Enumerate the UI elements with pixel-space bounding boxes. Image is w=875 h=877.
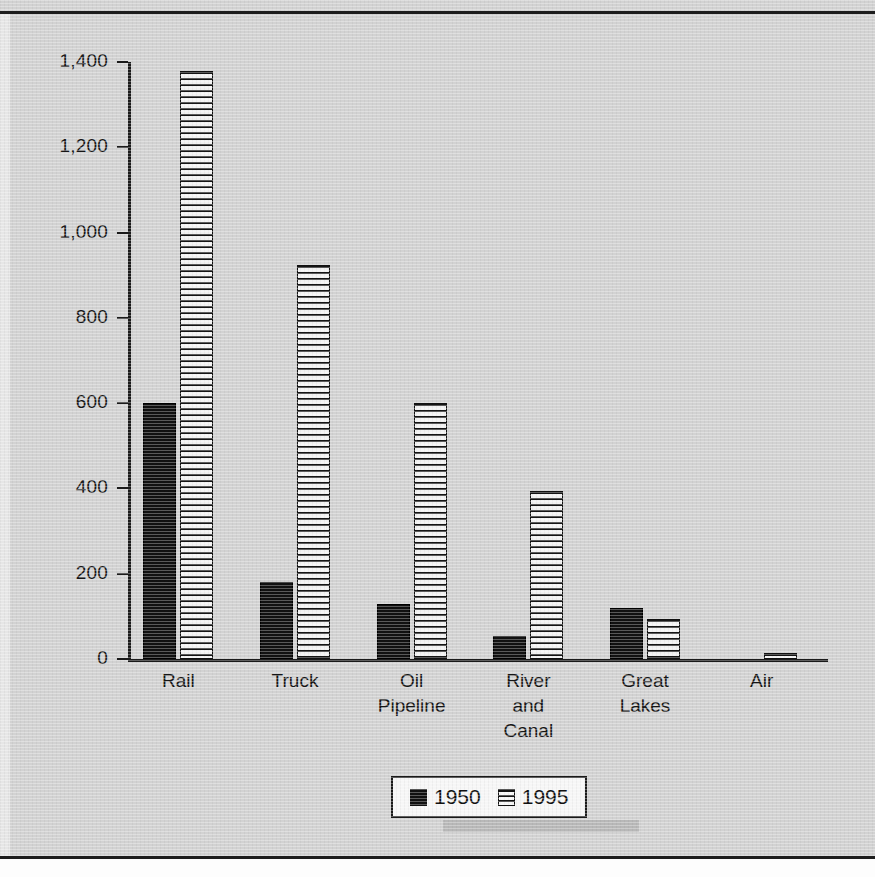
- y-tick-1,200: [117, 146, 128, 148]
- y-tick-1,400: [117, 61, 128, 63]
- x-category-label-truck: Truck: [240, 668, 350, 693]
- bar-1950-rail: [143, 403, 176, 659]
- top-rule: [0, 11, 875, 14]
- y-tick-1,000: [117, 232, 128, 234]
- chart-legend: 1950 1995: [391, 776, 587, 818]
- y-tick-label-600: 600: [0, 391, 108, 413]
- x-category-label-rail: Rail: [123, 668, 233, 693]
- page-bottom-margin: [0, 859, 875, 877]
- y-tick-0: [117, 658, 128, 660]
- bar-1950-great-lakes: [610, 608, 643, 659]
- y-tick-400: [117, 487, 128, 489]
- y-tick-label-0: 0: [0, 647, 108, 669]
- y-tick-600: [117, 402, 128, 404]
- legend-label-1995: 1995: [522, 785, 569, 809]
- y-tick-label-1,200: 1,200: [0, 135, 108, 157]
- bar-1995-rail: [180, 71, 213, 659]
- x-category-label-air: Air: [707, 668, 817, 693]
- legend-label-1950: 1950: [434, 785, 481, 809]
- x-category-label-river-and-canal: RiverandCanal: [473, 668, 583, 743]
- y-tick-label-800: 800: [0, 306, 108, 328]
- x-category-label-great-lakes: GreatLakes: [590, 668, 700, 718]
- legend-item-1950: 1950: [410, 785, 481, 809]
- x-axis-line: [128, 659, 828, 662]
- x-category-label-oil-pipeline: OilPipeline: [357, 668, 467, 718]
- plot-area: Billions of Ton-Miles 02004006008001,000…: [128, 62, 828, 659]
- y-axis-tick-labels: 02004006008001,0001,2001,400: [0, 62, 108, 659]
- y-tick-label-1,000: 1,000: [0, 221, 108, 243]
- x-axis-category-labels: RailTruckOilPipelineRiverandCanalGreatLa…: [128, 668, 828, 760]
- legend-item-1995: 1995: [498, 785, 569, 809]
- y-tick-label-400: 400: [0, 476, 108, 498]
- bar-1950-oil-pipeline: [377, 604, 410, 659]
- bar-1995-truck: [297, 265, 330, 659]
- bar-1995-river-and-canal: [530, 491, 563, 659]
- y-tick-200: [117, 573, 128, 575]
- bar-series-container: [128, 62, 828, 659]
- bar-1995-oil-pipeline: [414, 403, 447, 659]
- legend-swatch-solid-icon: [410, 789, 427, 806]
- bar-1995-great-lakes: [647, 619, 680, 660]
- bar-1995-air: [764, 653, 797, 659]
- chart-page: Billions of Ton-Miles 02004006008001,000…: [0, 0, 875, 877]
- y-tick-label-1,400: 1,400: [0, 50, 108, 72]
- bar-1950-river-and-canal: [493, 636, 526, 659]
- y-tick-label-200: 200: [0, 562, 108, 584]
- scan-artifact: [443, 820, 639, 832]
- bar-1950-truck: [260, 582, 293, 659]
- legend-swatch-striped-icon: [498, 789, 515, 806]
- y-tick-800: [117, 317, 128, 319]
